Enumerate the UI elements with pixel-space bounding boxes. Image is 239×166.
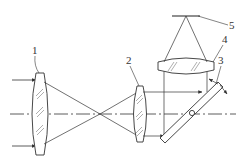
lens-1	[32, 73, 48, 155]
mirror-pivot	[189, 110, 194, 115]
diagram-canvas: 1 2 3 4 5	[0, 0, 239, 166]
optical-system-diagram: 1 2 3 4 5	[0, 0, 239, 166]
lens-4	[158, 58, 214, 74]
leader-lines	[35, 16, 228, 86]
label-4: 4	[222, 33, 228, 45]
label-5: 5	[229, 19, 235, 31]
converging-rays	[44, 82, 138, 144]
label-3: 3	[218, 54, 224, 66]
scanning-mirror-3	[160, 79, 227, 143]
label-1: 1	[32, 44, 38, 56]
focused-rays	[164, 16, 207, 62]
lens-2	[134, 86, 147, 142]
label-2: 2	[126, 54, 132, 66]
